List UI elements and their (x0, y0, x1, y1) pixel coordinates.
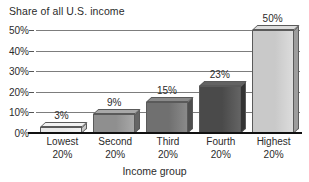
x-category-label-line: 20% (32, 149, 93, 162)
bar-front-face (93, 114, 135, 133)
bar-value-label: 9% (89, 97, 139, 108)
x-axis-title: Income group (0, 165, 309, 177)
bar-value-label: 15% (142, 85, 192, 96)
x-category-label: Lowest20% (32, 136, 93, 161)
y-tick-label: 20% (9, 86, 29, 97)
y-tick-mark (29, 112, 34, 113)
x-category-label: Fourth20% (190, 136, 251, 161)
bar[interactable] (252, 30, 294, 133)
x-category-label: Third20% (138, 136, 199, 161)
x-category-label-line: 20% (190, 149, 251, 162)
x-category-label-line: 20% (243, 149, 304, 162)
y-tick-mark (29, 92, 34, 93)
bar-side-face (188, 98, 193, 133)
y-tick-mark (29, 30, 34, 31)
plot-area: 3%9%15%23%50% (36, 30, 300, 133)
chart-title: Share of all U.S. income (9, 5, 125, 17)
x-category-label-line: Fourth (190, 136, 251, 149)
y-axis: 0%10%20%30%40%50% (0, 30, 34, 133)
bar-side-face (294, 25, 299, 133)
y-tick-mark (29, 51, 34, 52)
x-category-label: Highest20% (243, 136, 304, 161)
bar-value-label: 3% (36, 110, 86, 121)
x-category-label-line: Lowest (32, 136, 93, 149)
bar-side-face (135, 110, 140, 133)
y-tick-label: 50% (9, 25, 29, 36)
x-category-label-line: 20% (138, 149, 199, 162)
x-axis-line (28, 132, 302, 134)
bar-front-face (252, 30, 294, 133)
y-tick-label: 40% (9, 45, 29, 56)
bar-front-face (199, 86, 241, 133)
y-tick-mark (29, 71, 34, 72)
bar-value-label: 50% (248, 13, 298, 24)
bar-front-face (146, 102, 188, 133)
bar-value-label: 23% (195, 69, 245, 80)
x-category-label: Second20% (85, 136, 146, 161)
bar-side-face (241, 81, 246, 133)
x-category-label-line: Second (85, 136, 146, 149)
y-tick-label: 0% (15, 128, 29, 139)
x-category-label-line: Third (138, 136, 199, 149)
bar[interactable] (146, 102, 188, 133)
bar[interactable] (93, 114, 135, 133)
x-axis-category-labels: Lowest20%Second20%Third20%Fourth20%Highe… (36, 136, 302, 166)
x-category-label-line: Highest (243, 136, 304, 149)
bar-chart: Share of all U.S. income 0%10%20%30%40%5… (0, 0, 309, 182)
x-category-label-line: 20% (85, 149, 146, 162)
y-tick-label: 30% (9, 66, 29, 77)
bar[interactable] (199, 86, 241, 133)
y-tick-label: 10% (9, 107, 29, 118)
